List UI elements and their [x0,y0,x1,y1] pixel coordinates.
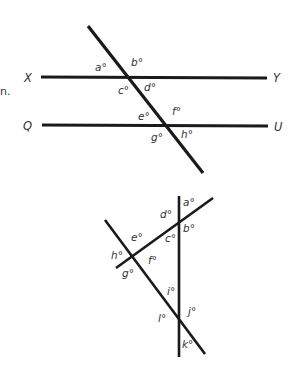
angle-label-b2: b° [183,222,195,234]
figure-parallel-lines-transversal: X Y Q U a° b° c° d° e° f° g° h° [23,26,283,173]
angle-label-a: a° [95,61,107,73]
point-label-x: X [23,71,33,85]
angle-label-j2: j° [186,305,196,317]
angle-label-d2: d° [160,208,172,220]
point-label-q: Q [23,119,32,133]
transversal-line [88,26,203,173]
point-label-y: Y [273,71,281,85]
angle-label-k2: k° [182,338,193,350]
angle-label-a2: a° [183,196,195,208]
line-xy [41,77,267,78]
angle-label-d: d° [144,81,156,93]
angle-label-e: e° [138,110,150,122]
angle-label-f: f° [172,105,181,117]
angle-label-h2: h° [111,249,123,261]
angle-label-b: b° [131,56,143,68]
angle-label-i2: i° [167,285,175,297]
angle-label-g: g° [151,131,163,143]
angle-label-h: h° [181,128,193,140]
angle-label-c2: c° [165,232,176,244]
margin-text-fragment: n. [0,85,10,98]
angle-label-f2: f° [148,254,157,266]
diagram-canvas: n. X Y Q U a° b° c° d° e° f° g° h° a° b°… [0,0,306,382]
figure-triangle-lines: a° b° c° d° e° f° g° h° i° j° k° l° [105,196,213,357]
point-label-u: U [274,120,283,134]
line-qu [42,125,268,126]
angle-label-l2: l° [158,312,166,324]
angle-label-e2: e° [131,231,143,243]
angle-label-c: c° [118,84,129,96]
angle-label-g2: g° [122,267,134,279]
